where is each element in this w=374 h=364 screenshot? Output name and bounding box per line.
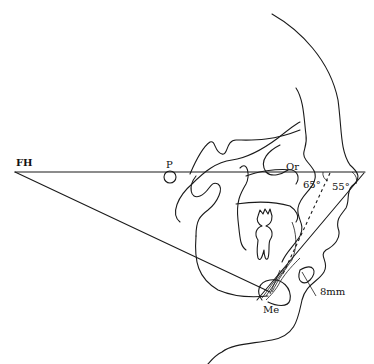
fh-label: FH bbox=[16, 157, 33, 168]
porion-circle bbox=[164, 171, 176, 183]
coronoid-loop bbox=[237, 166, 248, 250]
porion-label: P bbox=[166, 159, 173, 170]
lower-incisor bbox=[266, 258, 300, 300]
condyle-loop bbox=[191, 176, 220, 236]
angle-65-label: 65° bbox=[303, 179, 321, 190]
mandibular-plane-line bbox=[15, 172, 270, 292]
cephalometric-diagram: FH P Or 65° 55° Me 8mm bbox=[0, 0, 374, 364]
pterygoid-outline bbox=[190, 130, 300, 174]
angle-55-label: 55° bbox=[332, 181, 350, 192]
8mm-leader-line bbox=[302, 272, 316, 296]
distance-label: 8mm bbox=[320, 286, 346, 297]
facial-line bbox=[257, 173, 364, 300]
molar-tooth bbox=[256, 209, 272, 260]
orbitale-label: Or bbox=[286, 161, 299, 172]
menton-label: Me bbox=[263, 304, 279, 315]
